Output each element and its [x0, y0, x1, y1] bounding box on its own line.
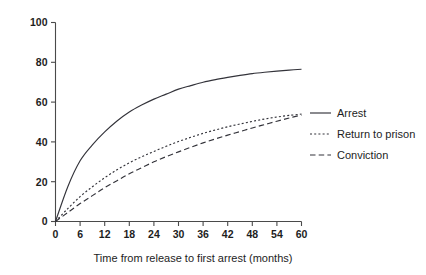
x-tick-label: 0	[53, 228, 59, 240]
legend-label: Arrest	[337, 107, 366, 119]
y-axis-tick-labels: 020406080100	[30, 16, 48, 227]
chart-legend: ArrestReturn to prisonConviction	[310, 107, 415, 161]
y-tick-label: 80	[36, 56, 48, 68]
legend-label: Return to prison	[337, 128, 415, 140]
chart-canvas: 020406080100 06121824303642485460 Time f…	[0, 0, 426, 275]
x-tick-label: 48	[246, 228, 258, 240]
y-tick-label: 60	[36, 96, 48, 108]
x-axis-tick-labels: 06121824303642485460	[53, 228, 308, 240]
x-axis-title: Time from release to first arrest (month…	[94, 252, 293, 264]
y-tick-label: 40	[36, 136, 48, 148]
x-tick-label: 18	[123, 228, 135, 240]
recidivism-line-chart: 020406080100 06121824303642485460 Time f…	[0, 0, 426, 275]
x-tick-label: 24	[148, 228, 160, 240]
x-tick-label: 42	[222, 228, 234, 240]
x-tick-label: 60	[296, 228, 308, 240]
y-tick-label: 100	[30, 16, 48, 28]
axis-lines	[56, 23, 302, 222]
x-tick-label: 12	[99, 228, 111, 240]
y-tick-label: 20	[36, 176, 48, 188]
legend-label: Conviction	[337, 149, 388, 161]
x-tick-label: 30	[173, 228, 185, 240]
x-tick-label: 36	[197, 228, 209, 240]
series-line-return-to-prison	[56, 114, 302, 221]
y-tick-label: 0	[42, 215, 48, 227]
series-line-arrest	[56, 69, 302, 221]
series-line-conviction	[56, 115, 302, 221]
x-tick-label: 6	[77, 228, 83, 240]
chart-series-lines	[56, 69, 302, 221]
chart-axes	[56, 23, 302, 222]
x-tick-label: 54	[271, 228, 283, 240]
